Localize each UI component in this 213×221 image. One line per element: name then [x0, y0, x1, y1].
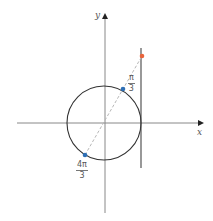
label-four-pi-over-3: 4π 3 [76, 161, 88, 180]
x-axis-arrow-icon [198, 120, 204, 126]
label-pi-over-3-numerator: π [128, 74, 135, 84]
point-pi-over-3 [121, 87, 126, 92]
label-pi-over-3: π 3 [128, 74, 135, 93]
label-pi-over-3-denominator: 3 [129, 84, 134, 93]
y-axis-arrow-icon [102, 13, 108, 19]
y-axis-label: y [95, 11, 100, 20]
dashed-ray [85, 56, 142, 155]
diagram-canvas [0, 0, 213, 221]
point-four-pi-over-3 [83, 153, 88, 158]
point-tangent-intersection [140, 54, 145, 59]
label-four-pi-over-3-denominator: 3 [79, 171, 84, 180]
x-axis-label: x [197, 128, 202, 137]
label-four-pi-over-3-numerator: 4π [76, 161, 88, 171]
